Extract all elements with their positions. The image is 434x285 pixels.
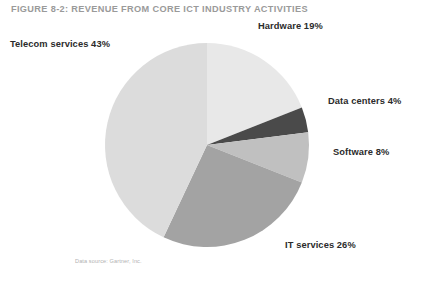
figure-container: FIGURE 8-2: REVENUE FROM CORE ICT INDUST… — [0, 0, 434, 285]
pie-label-software: Software 8% — [333, 147, 389, 158]
pie-label-it-services: IT services 26% — [285, 240, 356, 251]
data-source-note: Data source: Gartner, Inc. — [75, 257, 142, 265]
pie-label-telecom-services: Telecom services 43% — [10, 39, 110, 50]
pie-slice-group — [105, 43, 309, 247]
pie-label-data-centers: Data centers 4% — [328, 96, 401, 107]
pie-label-hardware: Hardware 19% — [258, 21, 323, 32]
